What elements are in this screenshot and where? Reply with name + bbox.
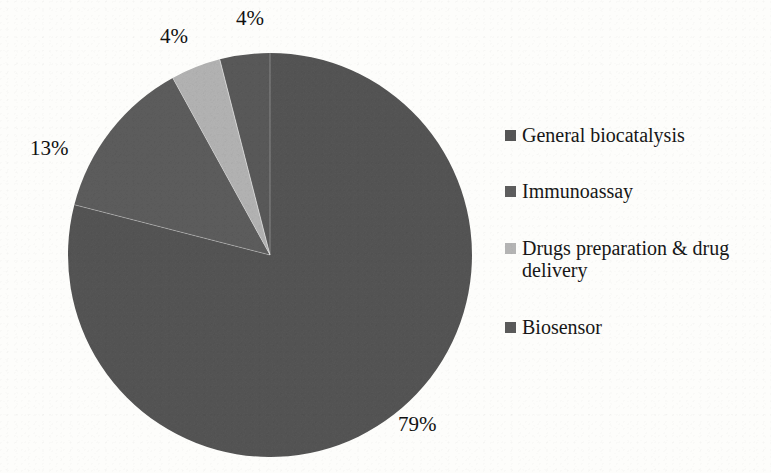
legend-item-biosensor: Biosensor	[505, 316, 767, 338]
pie-chart-figure: 4% 4% 13% 79% General biocatalysis Immun…	[0, 0, 771, 473]
legend-item-label: Immunoassay	[522, 180, 633, 202]
slice-label-immunoassay: 13%	[30, 138, 69, 159]
legend-item-drugs-preparation-drug-delivery: Drugs preparation & drug delivery	[505, 237, 767, 282]
legend-item-general-biocatalysis: General biocatalysis	[505, 124, 767, 146]
slice-label-general-biocatalysis: 79%	[398, 414, 437, 435]
legend-item-label: General biocatalysis	[522, 124, 685, 146]
legend-item-label: Biosensor	[522, 316, 602, 338]
legend-swatch-icon	[505, 243, 516, 254]
legend-swatch-icon	[505, 186, 516, 197]
legend-swatch-icon	[505, 130, 516, 141]
slice-label-biosensor: 4%	[236, 8, 264, 29]
chart-legend: General biocatalysis Immunoassay Drugs p…	[505, 124, 767, 338]
legend-swatch-icon	[505, 322, 516, 333]
pie-plot-area: 4% 4% 13% 79%	[0, 0, 500, 473]
pie-svg	[0, 0, 500, 473]
legend-item-immunoassay: Immunoassay	[505, 180, 767, 202]
slice-label-drugs-preparation: 4%	[160, 26, 188, 47]
legend-item-label: Drugs preparation & drug delivery	[522, 237, 758, 282]
